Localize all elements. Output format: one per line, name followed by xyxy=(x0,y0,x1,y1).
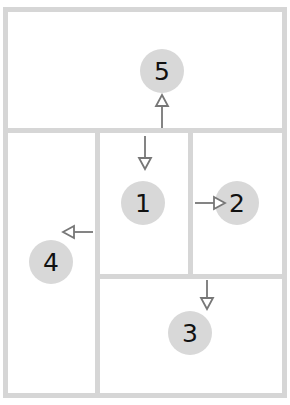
divider-top-horizontal xyxy=(3,128,287,133)
outer-border-left xyxy=(3,7,8,398)
region-4-marker: 4 xyxy=(29,240,73,284)
region-1-label: 1 xyxy=(135,191,151,216)
outer-border-top xyxy=(3,7,287,12)
region-1-marker: 1 xyxy=(121,181,165,225)
divider-left-vertical xyxy=(95,128,100,398)
divider-mid-horizontal xyxy=(95,274,287,279)
region-2-marker: 2 xyxy=(215,181,259,225)
region-5-marker: 5 xyxy=(140,49,184,93)
region-2-label: 2 xyxy=(229,191,245,216)
region-4-label: 4 xyxy=(43,250,59,275)
divider-mid-vertical xyxy=(188,128,193,278)
outer-border-bottom xyxy=(3,393,287,398)
region-3-label: 3 xyxy=(182,321,198,346)
region-3-marker: 3 xyxy=(168,311,212,355)
outer-border-right xyxy=(282,7,287,398)
region-5-label: 5 xyxy=(154,59,170,84)
